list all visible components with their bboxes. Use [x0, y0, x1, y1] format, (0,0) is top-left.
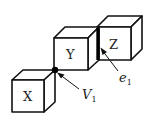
cube-z-label: Z: [109, 37, 118, 52]
e1-label: e1: [119, 70, 132, 87]
cube-y-label: Y: [65, 47, 75, 62]
cube-y: Y: [54, 27, 99, 70]
v1-pointer-arrow: [57, 73, 79, 90]
cube-x: X: [12, 70, 55, 112]
cube-diagram: Z Y X V1 e1: [0, 0, 149, 126]
cube-x-label: X: [23, 89, 33, 104]
shared-vertex-v1: [52, 67, 58, 73]
v1-label: V1: [82, 87, 96, 104]
